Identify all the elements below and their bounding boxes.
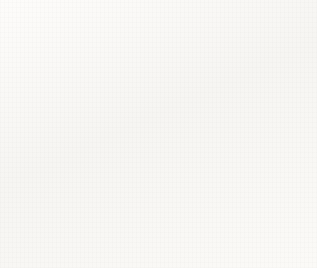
data-point-2006 bbox=[243, 86, 250, 93]
line-chart-plot-area bbox=[0, 0, 317, 268]
data-point-2005 bbox=[213, 86, 220, 93]
data-point-2004 bbox=[182, 61, 189, 68]
data-point-2001 bbox=[91, 140, 98, 147]
data-point-2002 bbox=[121, 108, 128, 115]
data-point-2007 bbox=[273, 20, 280, 27]
data-point-2003 bbox=[152, 96, 159, 103]
x-axis-tick-marks bbox=[77, 231, 290, 238]
data-point-2000 bbox=[61, 117, 68, 124]
